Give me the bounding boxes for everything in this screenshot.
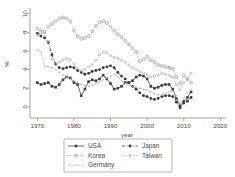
data-point: [43, 37, 46, 40]
data-point: [183, 98, 184, 99]
data-point: [103, 79, 104, 80]
data-point: [146, 55, 149, 58]
data-point: [98, 78, 101, 81]
data-point: [92, 85, 93, 86]
data-point: [94, 69, 97, 72]
data-point: [160, 84, 163, 87]
data-point: [142, 94, 145, 97]
data-point: [87, 72, 90, 75]
data-point: [91, 30, 94, 33]
data-point: [120, 85, 123, 88]
x-tick-label: 1990: [104, 122, 118, 129]
data-point: [132, 86, 133, 87]
data-point: [153, 98, 156, 101]
data-point: [40, 51, 41, 52]
data-point: [84, 88, 87, 91]
data-point: [110, 75, 111, 76]
data-point: [154, 93, 155, 94]
data-point: [172, 90, 173, 91]
data-point: [58, 17, 61, 20]
data-point: [47, 81, 50, 84]
data-point: [36, 81, 39, 84]
data-point: [40, 83, 43, 86]
data-point: [37, 49, 38, 50]
data-point: [142, 75, 145, 78]
y-tick-label: 6: [22, 49, 29, 53]
data-point: [168, 94, 171, 97]
y-tick-label: 10: [22, 10, 29, 17]
series-usa: [36, 74, 192, 107]
data-point: [117, 87, 120, 90]
legend-entry-korea[interactable]: Korea: [68, 152, 105, 159]
data-point: [54, 86, 57, 89]
data-point: [62, 74, 63, 75]
data-point: [124, 39, 127, 42]
legend-entry-usa[interactable]: USA: [68, 142, 102, 149]
data-point: [62, 79, 65, 82]
data-point: [87, 80, 90, 83]
data-point: [109, 82, 112, 85]
series-line: [37, 75, 191, 106]
y-tick-label: 0: [22, 105, 29, 109]
data-point: [168, 91, 169, 92]
data-point: [106, 77, 107, 78]
data-point: [66, 76, 67, 77]
data-point: [171, 95, 174, 98]
data-point: [70, 78, 71, 79]
data-point: [43, 82, 46, 85]
data-point: [186, 96, 189, 99]
x-tick-label: 1970: [30, 122, 44, 129]
data-point: [69, 65, 72, 68]
data-point: [139, 88, 140, 89]
data-point: [160, 95, 163, 98]
legend-entry-taiwan[interactable]: Taiwan: [122, 152, 162, 159]
data-point: [88, 86, 89, 87]
x-tick-label: 2000: [140, 122, 154, 129]
data-point: [116, 71, 119, 74]
data-point: [98, 54, 100, 56]
data-point: [142, 58, 145, 61]
x-tick-label: 1980: [67, 122, 81, 129]
data-point: [73, 80, 74, 81]
data-point: [116, 33, 119, 36]
data-point: [150, 91, 151, 92]
data-point: [153, 75, 155, 77]
data-point: [51, 67, 52, 68]
data-point: [105, 65, 108, 68]
data-point: [91, 70, 94, 73]
data-point: [127, 43, 130, 46]
data-point: [128, 64, 130, 66]
data-point: [117, 76, 118, 77]
data-point: [164, 83, 167, 86]
x-tick-label: 2010: [177, 122, 191, 129]
data-point: [182, 102, 185, 105]
data-point: [51, 85, 54, 88]
data-point: [153, 87, 156, 90]
legend-entry-germany[interactable]: Germany: [68, 161, 115, 169]
data-point: [99, 81, 100, 82]
legend-entry-japan[interactable]: Japan: [122, 142, 160, 150]
data-point: [73, 66, 76, 69]
data-point: [87, 66, 89, 68]
data-point: [65, 66, 68, 69]
data-point: [131, 47, 134, 50]
data-point: [131, 79, 134, 82]
data-point: [58, 83, 61, 86]
data-point: [187, 92, 188, 93]
data-point: [190, 96, 193, 99]
data-point: [128, 85, 129, 86]
data-point: [120, 75, 123, 78]
data-point: [143, 88, 144, 89]
growth-rate-line-chart: 0246810197019801990200020102020year%USAJ…: [0, 0, 235, 177]
chart-figure: 0246810197019801990200020102020year%USAJ…: [0, 0, 235, 177]
y-tick-label: 2: [22, 86, 29, 90]
data-point: [142, 72, 144, 74]
data-point: [179, 103, 180, 104]
series-line: [37, 33, 191, 107]
data-point: [146, 78, 149, 81]
data-point: [102, 51, 104, 53]
legend-label: Korea: [88, 152, 105, 159]
data-point: [190, 89, 191, 90]
data-point: [120, 36, 123, 39]
data-point: [157, 97, 160, 100]
